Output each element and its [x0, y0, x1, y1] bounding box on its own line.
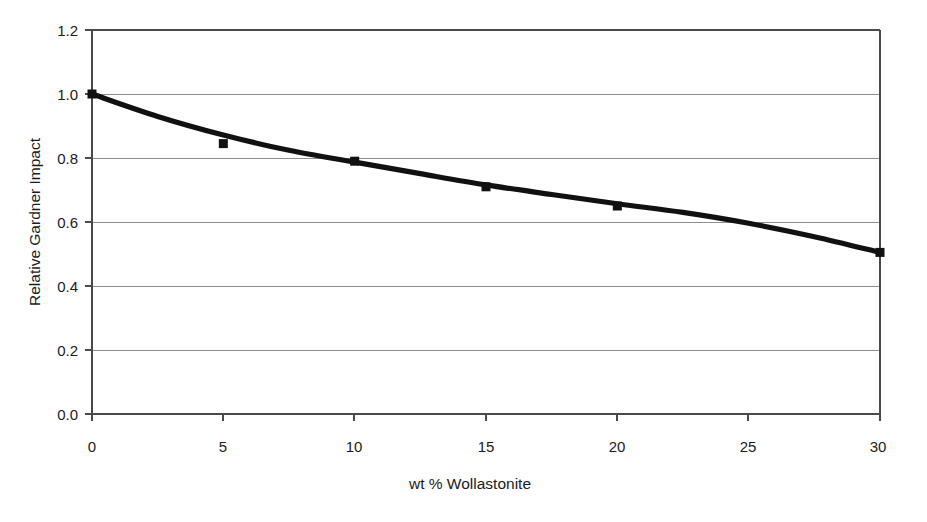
data-point-marker — [350, 157, 359, 166]
x-tick-label-0: 0 — [88, 438, 96, 455]
x-tick-label-25: 25 — [740, 438, 757, 455]
x-tick-label-15: 15 — [478, 438, 495, 455]
data-point-marker — [88, 90, 97, 99]
x-axis-title: wt % Wollastonite — [408, 475, 531, 492]
chart-canvas: 1.2 1.0 0.8 0.6 0.4 0.2 0.0 0 5 10 15 20… — [0, 0, 927, 522]
x-tick-label-20: 20 — [609, 438, 626, 455]
x-tick-label-5: 5 — [219, 438, 227, 455]
y-axis-title: Relative Gardner Impact — [26, 137, 43, 306]
y-tick-label-0-0: 0.0 — [57, 406, 78, 423]
y-tick-label-1-2: 1.2 — [57, 22, 78, 39]
y-tick-label-0-8: 0.8 — [57, 150, 78, 167]
data-point-marker — [219, 139, 228, 148]
chart-figure: 1.2 1.0 0.8 0.6 0.4 0.2 0.0 0 5 10 15 20… — [0, 0, 927, 522]
data-point-marker — [482, 182, 491, 191]
x-tick-label-10: 10 — [346, 438, 363, 455]
y-tick-label-0-4: 0.4 — [57, 278, 78, 295]
data-point-marker — [613, 202, 622, 211]
data-point-marker — [876, 248, 885, 257]
figure-background — [0, 0, 927, 522]
y-tick-label-0-6: 0.6 — [57, 214, 78, 231]
y-tick-label-1-0: 1.0 — [57, 86, 78, 103]
y-tick-label-0-2: 0.2 — [57, 342, 78, 359]
x-tick-label-30: 30 — [870, 438, 887, 455]
